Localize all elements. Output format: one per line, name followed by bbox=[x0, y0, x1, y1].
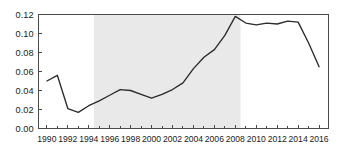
y-tick-label: 0.04 bbox=[16, 86, 34, 96]
chart-canvas: 0.000.020.040.060.080.100.12 19901992199… bbox=[0, 0, 341, 150]
y-tick-label: 0.12 bbox=[16, 10, 34, 20]
shaded-band-0 bbox=[94, 15, 241, 129]
x-tick-label: 2014 bbox=[289, 134, 308, 144]
x-tick-labels-group: 1990199219941996199820002002200420062008… bbox=[37, 134, 329, 144]
x-tick-label: 2016 bbox=[310, 134, 329, 144]
x-tick-label: 2002 bbox=[163, 134, 182, 144]
y-tick-marks-group bbox=[39, 15, 43, 129]
x-tick-label: 2008 bbox=[226, 134, 245, 144]
x-tick-label: 2010 bbox=[247, 134, 266, 144]
x-tick-label: 2012 bbox=[268, 134, 287, 144]
y-tick-label: 0.00 bbox=[16, 124, 34, 134]
x-tick-label: 1994 bbox=[79, 134, 98, 144]
x-tick-label: 1990 bbox=[37, 134, 56, 144]
shaded-region-group bbox=[94, 15, 241, 129]
y-tick-label: 0.02 bbox=[16, 105, 34, 115]
y-tick-label: 0.10 bbox=[16, 29, 34, 39]
x-tick-label: 2004 bbox=[184, 134, 203, 144]
y-tick-label: 0.06 bbox=[16, 67, 34, 77]
x-tick-label: 1992 bbox=[58, 134, 77, 144]
y-tick-label: 0.08 bbox=[16, 48, 34, 58]
x-tick-label: 1998 bbox=[121, 134, 140, 144]
x-tick-label: 1996 bbox=[100, 134, 119, 144]
y-tick-labels-group: 0.000.020.040.060.080.100.12 bbox=[16, 10, 34, 134]
x-tick-label: 2000 bbox=[142, 134, 161, 144]
line-chart: 0.000.020.040.060.080.100.12 19901992199… bbox=[0, 0, 341, 150]
x-tick-label: 2006 bbox=[205, 134, 224, 144]
